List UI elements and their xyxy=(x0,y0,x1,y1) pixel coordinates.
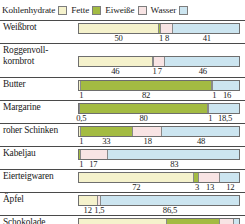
row-label-line: Kabeljau xyxy=(3,148,77,159)
row-label-line: Roggenvoll- xyxy=(3,45,77,56)
legend-item-label: Fette xyxy=(71,5,89,15)
chart-row: Butter182116 xyxy=(0,77,245,100)
legend-item-protein: Eiweiße xyxy=(105,5,150,15)
bar-segment-protein xyxy=(220,219,234,224)
row-label: Margarine xyxy=(3,102,77,113)
row-label: Roggenvoll-kornbrot xyxy=(3,45,77,66)
value-labels: 461746 xyxy=(78,66,240,77)
bar-segment-water xyxy=(101,196,239,205)
legend-item-water: Wasser xyxy=(151,5,193,15)
row-label-line: Butter xyxy=(3,79,77,90)
row-label-line: Schokolade xyxy=(3,217,77,224)
row-label-line: Weißbrot xyxy=(3,22,77,33)
legend-swatch-protein xyxy=(138,6,147,15)
segment-value-protein: 7 xyxy=(158,66,162,77)
legend-swatch-fat xyxy=(92,6,101,15)
bar-segment-carbs xyxy=(79,57,153,66)
chart-row: Eierteigwaren7231312 xyxy=(0,169,245,192)
row-label: Butter xyxy=(3,79,77,90)
row-label: roher Schinken xyxy=(3,125,77,136)
row-label: Weißbrot xyxy=(3,22,77,33)
row-label-line: kornbrot xyxy=(3,56,77,67)
bar-segment-protein xyxy=(81,150,108,159)
bar-segment-water xyxy=(220,173,239,182)
chart-row: Roggenvoll-kornbrot461746 xyxy=(0,43,245,77)
bar-segment-protein xyxy=(133,127,162,136)
legend-item-carbs: Kohlenhydrate xyxy=(2,5,71,15)
bar-segment-water xyxy=(213,81,239,90)
chart-row: Margarine0,580118,5 xyxy=(0,100,245,123)
bar-segment-water xyxy=(165,57,239,66)
bar-segment-water xyxy=(108,150,239,159)
segment-value-fat: 1 xyxy=(152,66,156,77)
row-label-line: Margarine xyxy=(3,102,77,113)
legend-swatch-water xyxy=(179,6,188,15)
bar-segment-fat xyxy=(81,127,134,136)
chart-legend: KohlenhydrateFetteEiweißeWasser xyxy=(0,0,245,20)
segment-value-carbs: 46 xyxy=(111,66,119,77)
bar-segment-carbs xyxy=(79,196,98,205)
row-label-line: Eierteigwaren xyxy=(3,171,77,182)
bar-segment-fat xyxy=(167,219,220,224)
bar-segment-water xyxy=(209,104,239,113)
bar-segment-water xyxy=(162,127,239,136)
legend-item-label: Kohlenhydrate xyxy=(2,5,55,15)
stacked-bar xyxy=(78,218,240,224)
legend-item-label: Eiweiße xyxy=(105,5,134,15)
nutrient-composition-chart: KohlenhydrateFetteEiweißeWasser Weißbrot… xyxy=(0,0,245,224)
chart-row: roher Schinken1331848 xyxy=(0,123,245,146)
bar-segment-carbs xyxy=(79,24,159,33)
chart-row: Weißbrot501841 xyxy=(0,20,245,43)
bar-segment-water xyxy=(234,219,239,224)
segment-value-water: 46 xyxy=(199,66,207,77)
bar-segment-fat xyxy=(81,81,212,90)
row-label: Kabeljau xyxy=(3,148,77,159)
chart-rows: Weißbrot501841Roggenvoll-kornbrot461746B… xyxy=(0,20,245,224)
chart-row: Schokolade553393 xyxy=(0,215,245,224)
row-label: Eierteigwaren xyxy=(3,171,77,182)
bar-segment-carbs xyxy=(79,219,167,224)
row-label: Äpfel xyxy=(3,194,77,205)
bar-segment-protein xyxy=(199,173,220,182)
chart-row: Äpfel121,586,5 xyxy=(0,192,245,215)
bar-segment-protein xyxy=(161,24,174,33)
row-label-line: roher Schinken xyxy=(3,125,77,136)
row-label-line: Äpfel xyxy=(3,194,77,205)
bar-segment-fat xyxy=(80,104,208,113)
bar-segment-water xyxy=(173,24,239,33)
chart-row: Kabeljau11783 xyxy=(0,146,245,169)
bar-segment-protein xyxy=(154,57,165,66)
legend-swatch-carbs xyxy=(58,6,67,15)
legend-item-fat: Fette xyxy=(71,5,105,15)
row-label: Schokolade xyxy=(3,217,77,224)
legend-item-label: Wasser xyxy=(151,5,177,15)
bar-segment-carbs xyxy=(79,173,194,182)
